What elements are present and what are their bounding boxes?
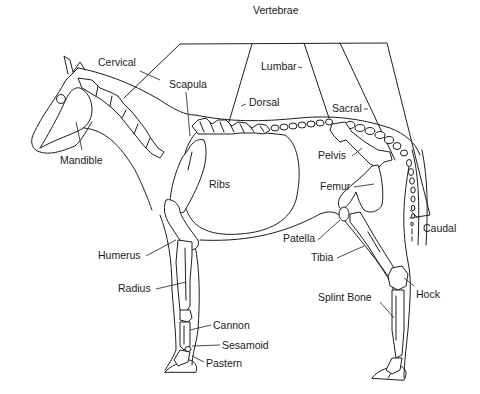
label-splint-bone: Splint Bone	[318, 292, 372, 303]
horse-skeleton-diagram: Vertebrae Cervical Scapula Lumbar Dorsal…	[0, 0, 480, 394]
body-outline	[32, 56, 428, 380]
label-radius: Radius	[118, 283, 151, 294]
front-cannon-bone	[180, 322, 190, 350]
hind-pastern-bone	[386, 358, 402, 374]
label-sacral: Sacral	[332, 103, 362, 114]
pastern-bone	[174, 350, 190, 366]
label-dorsal: Dorsal	[249, 97, 279, 108]
radius-bone	[176, 240, 192, 312]
label-lumbar: Lumbar	[261, 61, 297, 72]
label-cervical: Cervical	[98, 57, 136, 68]
label-pelvis: Pelvis	[318, 150, 346, 161]
label-sesamoid: Sesamoid	[222, 340, 269, 351]
lumbar-vertebrae	[271, 119, 333, 131]
skeleton-line-art	[0, 0, 480, 394]
label-humerus: Humerus	[98, 250, 141, 261]
label-patella: Patella	[283, 233, 315, 244]
label-tibia: Tibia	[311, 252, 333, 263]
label-scapula: Scapula	[169, 79, 207, 90]
label-ribs: Ribs	[209, 179, 230, 190]
label-pastern: Pastern	[206, 358, 242, 369]
hind-cannon-bone	[392, 290, 404, 358]
patella-bone	[339, 207, 349, 221]
label-femur: Femur	[320, 181, 350, 192]
label-mandible: Mandible	[60, 155, 103, 166]
carpus-bone	[180, 310, 192, 322]
label-cannon: Cannon	[213, 320, 250, 331]
label-vertebrae: Vertebrae	[253, 5, 299, 16]
label-caudal: Caudal	[423, 223, 456, 234]
label-hock: Hock	[416, 289, 440, 300]
scapula-bone	[170, 139, 206, 212]
hock-bone	[388, 266, 408, 290]
